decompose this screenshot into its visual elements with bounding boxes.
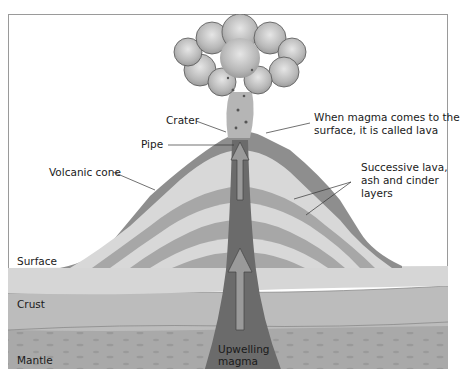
label-upwelling-2: magma — [218, 355, 258, 368]
label-crater: Crater — [166, 114, 199, 127]
volcano-diagram: Crater Pipe When magma comes to the surf… — [0, 0, 460, 383]
label-layers-1: Successive lava, — [361, 161, 448, 174]
label-lava-note-1: When magma comes to the — [314, 111, 460, 124]
label-volcanic-cone: Volcanic cone — [49, 166, 121, 179]
label-lava-note-2: surface, it is called lava — [314, 124, 438, 137]
label-crust: Crust — [17, 298, 45, 311]
label-layers-3: layers — [361, 187, 393, 200]
label-surface: Surface — [17, 255, 57, 268]
label-pipe: Pipe — [141, 138, 163, 151]
label-mantle: Mantle — [17, 354, 53, 367]
label-layers-2: ash and cinder — [361, 174, 439, 187]
